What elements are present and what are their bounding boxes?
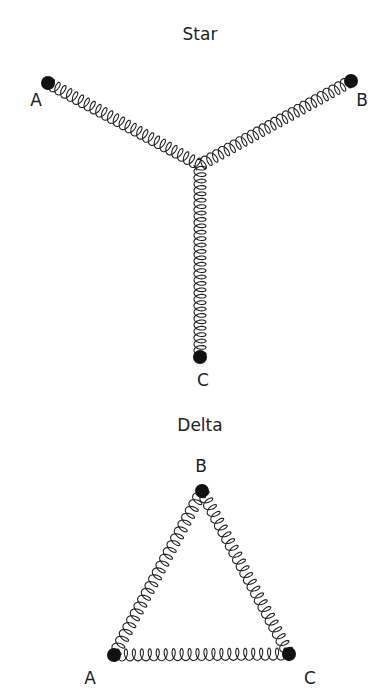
delta-label-b: B (195, 456, 207, 476)
spring-b-a (109, 488, 206, 655)
spring-b-c (197, 491, 293, 657)
node-a-dot (41, 76, 55, 90)
node-a-dot (107, 648, 121, 662)
delta-springs (109, 488, 293, 661)
delta-label-a: A (84, 668, 96, 688)
star-label-a: A (30, 90, 42, 110)
node-c-dot (282, 647, 296, 661)
spring-junction-c (194, 165, 206, 357)
node-b-dot (195, 484, 209, 498)
node-c-dot (193, 350, 207, 364)
star-label-c: C (197, 370, 209, 390)
spring-a-junction (45, 79, 200, 170)
node-b-dot (344, 74, 358, 88)
delta-label-c: C (304, 668, 316, 688)
star-title: Star (183, 24, 218, 44)
star-label-b: B (356, 90, 368, 110)
star-delta-diagram: Star A B C Delta A B C (0, 0, 386, 695)
delta-title: Delta (177, 415, 222, 435)
spring-a-c (114, 648, 289, 661)
star-springs (45, 76, 351, 357)
spring-b-junction (197, 76, 351, 169)
delta-nodes (107, 484, 296, 662)
